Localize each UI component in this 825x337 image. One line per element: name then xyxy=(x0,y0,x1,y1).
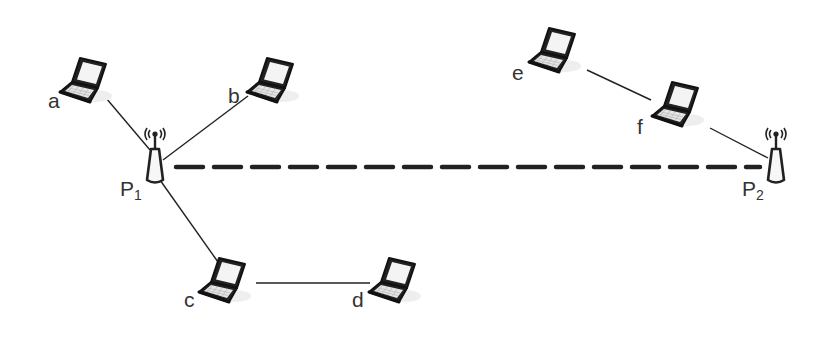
device-d[interactable]: d xyxy=(352,258,421,311)
laptop-icon xyxy=(60,58,112,102)
link-f-p2 xyxy=(710,128,768,158)
laptop-icon xyxy=(369,258,421,302)
device-label: b xyxy=(228,84,240,107)
device-f[interactable]: f xyxy=(637,82,704,138)
laptop-icon xyxy=(199,258,251,302)
device-b[interactable]: b xyxy=(228,58,299,107)
device-a[interactable]: a xyxy=(48,58,112,112)
device-c[interactable]: c xyxy=(184,258,251,311)
network-diagram: P1 P2 a b c d e f xyxy=(0,0,825,337)
device-e[interactable]: e xyxy=(512,28,581,84)
laptop-icon xyxy=(529,28,581,72)
link-p1-c xyxy=(160,180,218,262)
link-e-f xyxy=(587,70,651,100)
link-a-p1 xyxy=(106,98,150,150)
device-label: f xyxy=(637,115,643,138)
access-point-label: P1 xyxy=(120,177,142,203)
antenna-tower-icon xyxy=(145,128,165,183)
antenna-tower-icon xyxy=(766,128,786,183)
device-label: e xyxy=(512,61,524,84)
laptop-icon xyxy=(247,58,299,102)
laptop-icon xyxy=(652,82,704,126)
access-point-p1[interactable]: P1 xyxy=(120,128,165,203)
device-label: d xyxy=(352,288,364,311)
access-point-label: P2 xyxy=(742,177,764,203)
device-label: a xyxy=(48,89,60,112)
device-label: c xyxy=(184,288,195,311)
